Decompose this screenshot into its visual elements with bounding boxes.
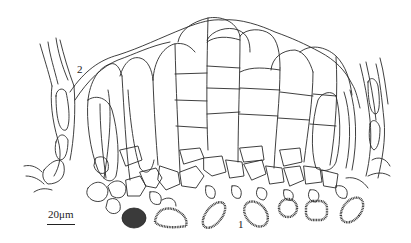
spore — [306, 201, 327, 220]
spore — [279, 199, 297, 217]
panel-label-1: 1 — [238, 219, 244, 230]
scale-bar — [47, 224, 75, 225]
spore — [198, 198, 229, 231]
scale-bar-label: 20μm — [48, 209, 73, 220]
spore — [155, 209, 187, 228]
spore — [239, 197, 272, 231]
botanical-line-drawing — [0, 0, 411, 243]
spore-row — [122, 193, 368, 231]
spore-ornamented — [122, 208, 146, 228]
panel-label-2: 2 — [77, 64, 83, 75]
